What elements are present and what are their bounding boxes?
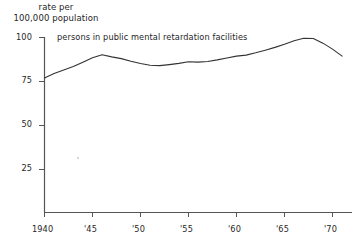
axis-lines bbox=[44, 37, 352, 213]
x-axis-ticks bbox=[45, 213, 333, 218]
plot-area bbox=[0, 0, 357, 247]
y-axis-ticks bbox=[39, 38, 45, 170]
chart-container: rate per 100,000 population persons in p… bbox=[0, 0, 357, 247]
data-series-line bbox=[45, 38, 343, 78]
